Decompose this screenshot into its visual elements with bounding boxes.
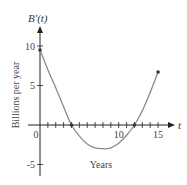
y-tick-label: -5 <box>27 159 35 170</box>
y-axis-arrow-icon <box>37 26 43 33</box>
data-point <box>156 70 160 74</box>
data-point <box>70 123 74 127</box>
axis-ticks <box>37 46 158 165</box>
x-axis-variable: t <box>178 119 182 131</box>
x-axis-title: Years <box>90 159 112 170</box>
chart: 01015105-5 B′(t) t Years Billions per ye… <box>0 0 187 185</box>
curve-b-prime <box>40 50 158 149</box>
y-tick-label: 10 <box>25 41 35 52</box>
function-label: B′(t) <box>28 12 48 25</box>
x-tick-label: 15 <box>153 129 163 140</box>
data-point <box>38 48 42 52</box>
y-axis-title: Billions per year <box>10 61 21 128</box>
tick-labels: 01015105-5 <box>25 41 163 171</box>
y-tick-label: 5 <box>30 80 35 91</box>
x-tick-label: 10 <box>114 129 124 140</box>
data-point <box>133 123 137 127</box>
marked-points <box>38 48 160 127</box>
x-tick-label: 0 <box>34 129 39 140</box>
x-axis-arrow-icon <box>168 122 175 128</box>
